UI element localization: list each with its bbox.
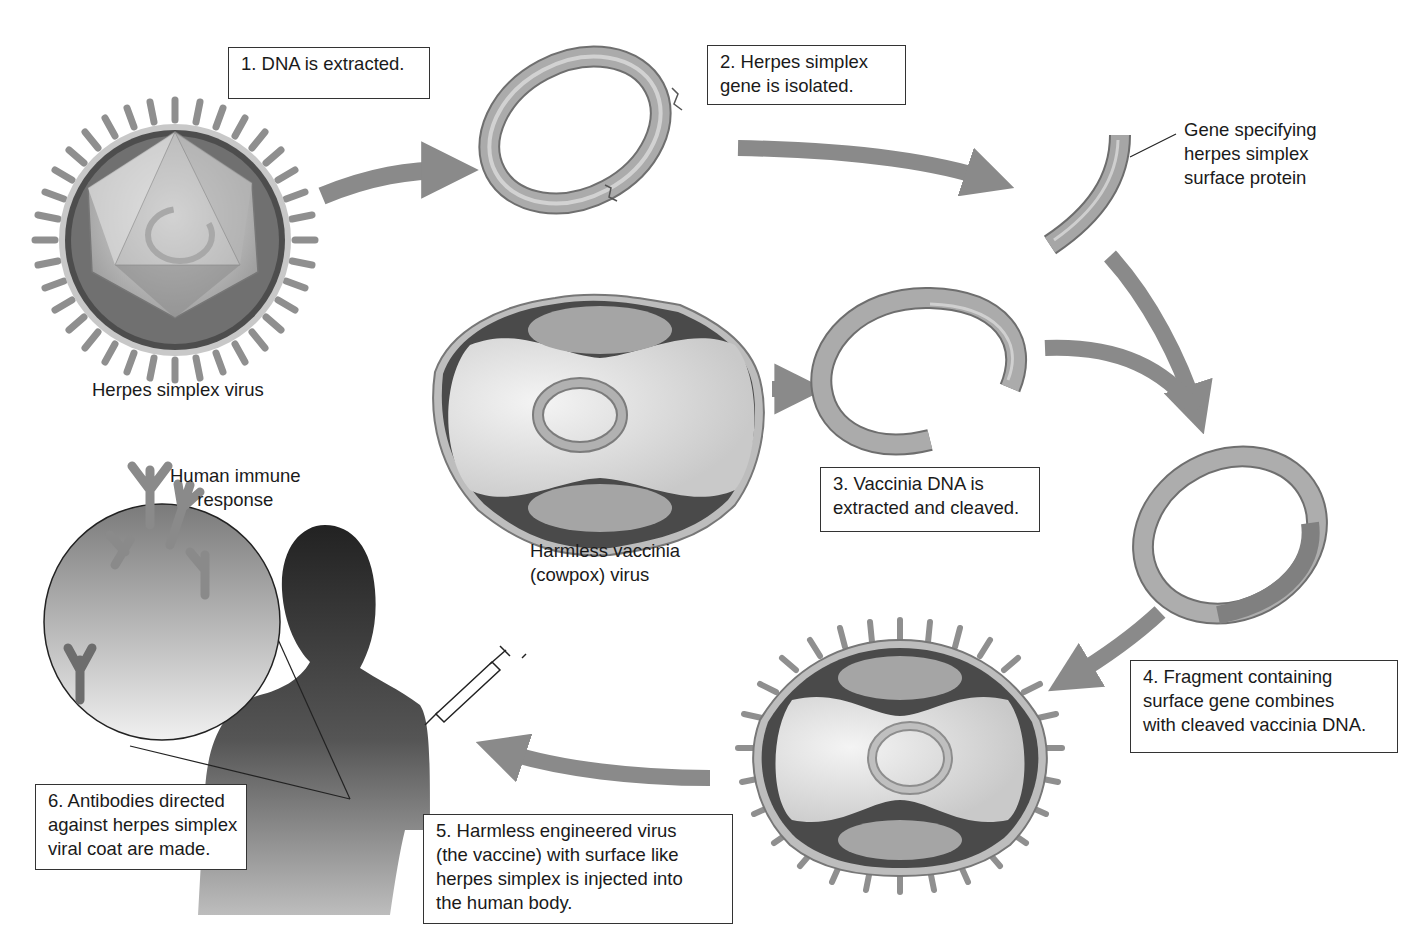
step-2-box: 2. Herpes simplex gene is isolated. xyxy=(707,45,906,105)
gene-leader-line xyxy=(1130,134,1176,157)
step-5-line-4: the human body. xyxy=(436,891,722,915)
step-4-line-2: surface gene combines xyxy=(1143,689,1387,713)
arrow-step-1 xyxy=(322,170,450,196)
vaccinia-virus-icon xyxy=(433,295,764,556)
engineered-virus-icon xyxy=(738,620,1062,892)
step-5-line-3: herpes simplex is injected into xyxy=(436,867,722,891)
step-3-box: 3. Vaccinia DNA is extracted and cleaved… xyxy=(820,467,1040,532)
step-6-line-2: against herpes simplex xyxy=(48,813,236,837)
step-2-line-2: gene is isolated. xyxy=(720,74,895,98)
step-3-line-2: extracted and cleaved. xyxy=(833,496,1029,520)
step-6-line-3: viral coat are made. xyxy=(48,837,236,861)
cleaved-vaccinia-ring-icon xyxy=(821,298,1016,444)
step-4-line-3: with cleaved vaccinia DNA. xyxy=(1143,713,1387,737)
herpes-dna-ring-icon xyxy=(464,28,687,233)
gene-fragment-icon xyxy=(1050,135,1120,245)
gene-label-line-2: herpes simplex xyxy=(1184,142,1317,166)
step-4-line-1: 4. Fragment containing xyxy=(1143,665,1387,689)
step-1-text: 1. DNA is extracted. xyxy=(241,52,419,76)
step-5-line-2: (the vaccine) with surface like xyxy=(436,843,722,867)
vaccinia-label-line-2: (cowpox) virus xyxy=(530,563,680,587)
step-5-box: 5. Harmless engineered virus (the vaccin… xyxy=(423,814,733,924)
immune-response-label: Human immune response xyxy=(170,464,301,512)
step-6-box: 6. Antibodies directed against herpes si… xyxy=(35,784,247,870)
step-5-line-1: 5. Harmless engineered virus xyxy=(436,819,722,843)
syringe-icon xyxy=(425,646,526,725)
immune-label-line-1: Human immune xyxy=(170,464,301,488)
vaccinia-label-line-1: Harmless vaccinia xyxy=(530,539,680,563)
step-1-box: 1. DNA is extracted. xyxy=(228,47,430,99)
step-4-box: 4. Fragment containing surface gene comb… xyxy=(1130,660,1398,753)
herpes-simplex-virus-icon xyxy=(35,100,315,380)
step-3-line-1: 3. Vaccinia DNA is xyxy=(833,472,1029,496)
gene-label-line-3: surface protein xyxy=(1184,166,1317,190)
arrow-step-5 xyxy=(500,750,710,778)
gene-fragment-label: Gene specifying herpes simplex surface p… xyxy=(1184,118,1317,190)
herpes-virus-label: Herpes simplex virus xyxy=(92,378,264,402)
arrow-step-2 xyxy=(738,148,990,180)
vaccinia-virus-label: Harmless vaccinia (cowpox) virus xyxy=(530,539,680,587)
gene-label-line-1: Gene specifying xyxy=(1184,118,1317,142)
step-6-line-1: 6. Antibodies directed xyxy=(48,789,236,813)
step-2-line-1: 2. Herpes simplex xyxy=(720,50,895,74)
immune-label-line-2: response xyxy=(170,488,301,512)
